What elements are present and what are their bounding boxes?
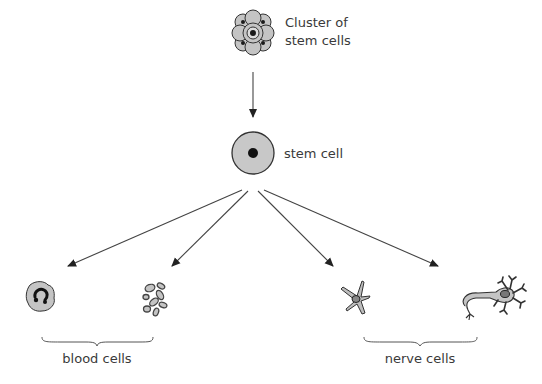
nerve-cells-label: nerve cells <box>385 351 456 366</box>
arrow-to-star-nerve-cell <box>258 191 333 266</box>
arrow-to-white-blood-cell <box>68 190 242 266</box>
white-blood-cell-icon <box>26 282 54 312</box>
blood-cells-label: blood cells <box>62 351 132 366</box>
cluster-label-line2: stem cells <box>285 33 351 48</box>
arrow-to-red-blood-cells <box>172 191 248 266</box>
stem-cell-diagram: Cluster of stem cells stem cell <box>0 0 542 384</box>
neuron-icon <box>463 276 526 320</box>
blood-cells-brace <box>42 337 153 346</box>
nerve-cells-brace <box>364 337 477 346</box>
cluster-label-line1: Cluster of <box>285 15 348 30</box>
red-blood-cells-icon <box>143 282 168 317</box>
cell-cluster-icon <box>232 10 274 55</box>
stem-cell-icon <box>232 132 274 174</box>
arrow-to-neuron <box>264 190 438 266</box>
star-shaped-nerve-cell-icon <box>341 281 370 314</box>
stem-cell-label: stem cell <box>284 146 343 161</box>
